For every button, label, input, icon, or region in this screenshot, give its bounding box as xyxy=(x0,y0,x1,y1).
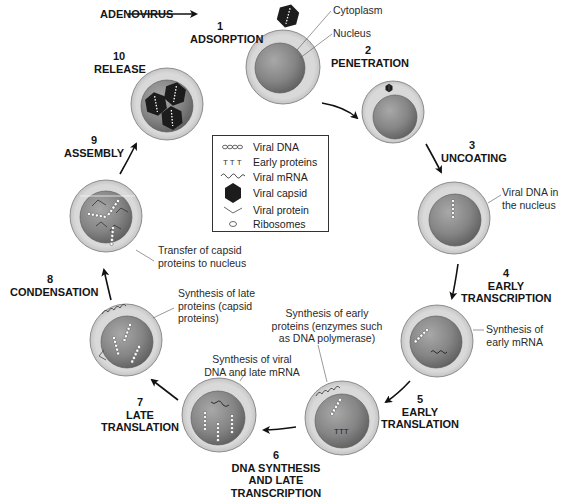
cell-8-condensation xyxy=(70,180,154,261)
step-name: EARLY xyxy=(380,406,460,419)
cell-2-penetration xyxy=(362,81,424,143)
step-number: 10 xyxy=(94,50,144,63)
step-name: TRANSCRIPTION xyxy=(228,487,324,498)
step-number: 4 xyxy=(461,267,551,280)
legend-item-viral-capsid: Viral capsid xyxy=(213,183,328,203)
early-proteins-icon: T T T xyxy=(213,157,253,167)
step-1-label: 1 ADSORPTION xyxy=(190,20,250,45)
step-number: 2 xyxy=(331,44,405,57)
step-3-label: 3 UNCOATING xyxy=(441,139,503,164)
step-name: DNA SYNTHESIS xyxy=(228,462,324,475)
annotation-line: proteins) xyxy=(178,312,255,325)
legend-label: Early proteins xyxy=(253,156,317,168)
legend-label: Ribosomes xyxy=(253,218,306,230)
early-proteins-annotation: Synthesis of early proteins (enzymes suc… xyxy=(267,307,387,345)
step-5-label: 5 EARLY TRANSLATION xyxy=(380,393,460,431)
svg-text:T T T: T T T xyxy=(223,158,242,167)
step-8-label: 8 CONDENSATION xyxy=(10,273,90,298)
step-name: CONDENSATION xyxy=(10,286,90,299)
early-mrna-annotation: Synthesis of early mRNA xyxy=(486,323,543,348)
annotation-line: Viral DNA in xyxy=(502,186,558,199)
legend-item-viral-protein: Viral protein xyxy=(213,202,328,217)
annotation-line: DNA and late mRNA xyxy=(202,366,302,379)
legend-item-viral-dna: Viral DNA xyxy=(213,139,328,154)
transfer-capsid-annotation: Transfer of capsid proteins to nucleus xyxy=(158,244,246,269)
step-number: 9 xyxy=(62,134,126,147)
late-proteins-annotation: Synthesis of late proteins (capsid prote… xyxy=(178,287,255,325)
step-number: 7 xyxy=(100,396,180,409)
legend-item-ribosomes: Ribosomes xyxy=(213,216,328,231)
step-2-label: 2 PENETRATION xyxy=(331,44,405,69)
annotation-line: the nucleus xyxy=(502,199,558,212)
annotation-line: Synthesis of xyxy=(486,323,543,336)
step-name: AND LATE xyxy=(228,474,324,487)
annotation-line: Transfer of capsid xyxy=(158,244,246,257)
step-name: PENETRATION xyxy=(331,57,405,70)
step-name: RELEASE xyxy=(94,63,144,76)
annotation-line: Synthesis of viral xyxy=(202,353,302,366)
step-number: 5 xyxy=(380,393,460,406)
step-number: 6 xyxy=(228,449,324,462)
legend-label: Viral protein xyxy=(253,204,309,216)
step-name: ASSEMBLY xyxy=(62,147,126,160)
viral-capsid-icon xyxy=(213,182,253,204)
diagram-artwork: TTT xyxy=(0,0,563,498)
cell-3-uncoating xyxy=(418,182,501,254)
annotation-line: proteins (enzymes such xyxy=(267,320,387,333)
cytoplasm-annotation: Cytoplasm xyxy=(333,4,383,17)
annotation-line: Synthesis of late xyxy=(178,287,255,300)
legend-label: Viral mRNA xyxy=(253,171,308,183)
cell-7-late-translation xyxy=(90,304,174,376)
step-name: TRANSLATION xyxy=(100,421,180,434)
ribosome-icon xyxy=(213,219,253,229)
viral-dna-icon xyxy=(213,143,253,151)
replication-cycle-diagram: TTT xyxy=(0,0,563,498)
step-number: 1 xyxy=(190,20,250,33)
legend-item-early-proteins: T T T Early proteins xyxy=(213,154,328,169)
step-name: EARLY xyxy=(461,280,551,293)
nucleus-annotation: Nucleus xyxy=(333,27,371,40)
step-name: UNCOATING xyxy=(441,152,503,165)
step-name: TRANSLATION xyxy=(380,418,460,431)
step-6-label: 6 DNA SYNTHESIS AND LATE TRANSCRIPTION xyxy=(228,449,324,498)
annotation-line: proteins (capsid xyxy=(178,300,255,313)
cell-6-dna-synthesis xyxy=(182,372,256,452)
step-9-label: 9 ASSEMBLY xyxy=(62,134,126,159)
step-7-label: 7 LATE TRANSLATION xyxy=(100,396,180,434)
step-number: 8 xyxy=(10,273,90,286)
legend: Viral DNA T T T Early proteins Viral mRN… xyxy=(212,135,329,232)
legend-label: Viral DNA xyxy=(253,141,299,153)
cell-5-early-translation: TTT xyxy=(305,345,379,455)
viral-dna-in-nucleus-annotation: Viral DNA in the nucleus xyxy=(502,186,558,211)
cell-4-early-transcription xyxy=(401,305,484,377)
cell-10-release xyxy=(131,68,203,140)
step-name: TRANSCRIPTION xyxy=(461,292,551,305)
annotation-line: Synthesis of early xyxy=(267,307,387,320)
svg-text:TTT: TTT xyxy=(334,427,349,436)
step-name: ADSORPTION xyxy=(190,33,250,46)
virus-label: ADENOVIRUS xyxy=(100,8,173,21)
annotation-line: as DNA polymerase) xyxy=(267,332,387,345)
step-number: 3 xyxy=(441,139,503,152)
viral-dna-late-mrna-annotation: Synthesis of viral DNA and late mRNA xyxy=(202,353,302,378)
viral-protein-icon xyxy=(213,205,253,215)
step-name: LATE xyxy=(100,409,180,422)
annotation-line: early mRNA xyxy=(486,336,543,349)
step-10-label: 10 RELEASE xyxy=(94,50,144,75)
viral-mrna-icon xyxy=(213,172,253,182)
step-4-label: 4 EARLY TRANSCRIPTION xyxy=(461,267,551,305)
cell-1-adsorption xyxy=(246,2,332,104)
annotation-line: proteins to nucleus xyxy=(158,257,246,270)
legend-label: Viral capsid xyxy=(253,187,307,199)
